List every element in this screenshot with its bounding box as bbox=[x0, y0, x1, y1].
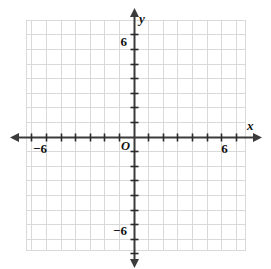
axes-and-ticks bbox=[0, 0, 271, 269]
x-axis-tick-label-positive-6: 6 bbox=[218, 142, 231, 155]
origin-label: O bbox=[121, 140, 130, 153]
x-axis-name-label: x bbox=[247, 119, 254, 132]
x-axis-tick-label-negative-6: −6 bbox=[29, 142, 51, 155]
y-axis-tick-label-positive-6: 6 bbox=[113, 35, 127, 48]
y-axis-tick-label-negative-6: −6 bbox=[106, 224, 127, 237]
coordinate-plane-figure: y x 6 −6 −6 6 O bbox=[0, 0, 271, 269]
y-axis-name-label: y bbox=[139, 12, 145, 25]
